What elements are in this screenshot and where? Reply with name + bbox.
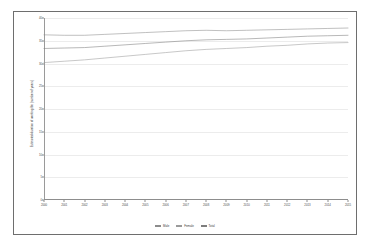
chart-legend: MaleFemaleTotal xyxy=(14,224,356,228)
x-tick-label: 2004 xyxy=(122,203,128,207)
x-tick-label: 2010 xyxy=(244,203,250,207)
x-tick-mark xyxy=(348,200,349,202)
x-tick-mark xyxy=(307,200,308,202)
x-tick-mark xyxy=(266,200,267,202)
x-tick-mark xyxy=(165,200,166,202)
plot-area: 0510152025303540 20002001200220032004200… xyxy=(44,18,348,200)
series-line-female xyxy=(44,43,348,63)
x-tick-mark xyxy=(145,200,146,202)
chart-canvas: Estimated duration of working life (numb… xyxy=(14,12,356,234)
y-tick-label: 0 xyxy=(40,198,42,202)
y-tick-label: 10 xyxy=(39,153,42,157)
x-tick-mark xyxy=(44,200,45,202)
legend-label: Total xyxy=(209,224,215,228)
y-tick-label: 40 xyxy=(39,16,42,20)
x-tick-label: 2000 xyxy=(41,203,47,207)
x-tick-label: 2013 xyxy=(304,203,310,207)
x-tick-label: 2003 xyxy=(102,203,108,207)
x-tick-mark xyxy=(206,200,207,202)
legend-swatch-icon xyxy=(176,225,182,226)
x-tick-mark xyxy=(327,200,328,202)
x-tick-mark xyxy=(246,200,247,202)
y-tick-label: 20 xyxy=(39,107,42,111)
y-tick-label: 30 xyxy=(39,62,42,66)
y-tick-label: 5 xyxy=(40,175,42,179)
x-tick-label: 2002 xyxy=(81,203,87,207)
x-tick-mark xyxy=(226,200,227,202)
x-tick-label: 2011 xyxy=(264,203,270,207)
chart-figure: Estimated duration of working life (numb… xyxy=(13,11,357,235)
series-line-male xyxy=(44,28,348,35)
series-lines xyxy=(44,18,348,200)
legend-label: Female xyxy=(184,224,194,228)
x-tick-label: 2012 xyxy=(284,203,290,207)
x-tick-label: 2014 xyxy=(325,203,331,207)
x-tick-label: 2015 xyxy=(345,203,351,207)
x-tick-label: 2007 xyxy=(183,203,189,207)
x-tick-mark xyxy=(64,200,65,202)
x-tick-mark xyxy=(287,200,288,202)
series-line-total xyxy=(44,35,348,48)
y-tick-label: 25 xyxy=(39,84,42,88)
legend-swatch-icon xyxy=(155,225,161,226)
x-tick-mark xyxy=(185,200,186,202)
x-tick-mark xyxy=(84,200,85,202)
y-axis-title: Estimated duration of working life (numb… xyxy=(31,54,34,174)
x-tick-label: 2008 xyxy=(203,203,209,207)
legend-label: Male xyxy=(163,224,169,228)
x-tick-label: 2009 xyxy=(223,203,229,207)
legend-swatch-icon xyxy=(201,225,207,226)
y-tick-label: 15 xyxy=(39,130,42,134)
legend-item-male[interactable]: Male xyxy=(155,224,169,228)
x-tick-mark xyxy=(104,200,105,202)
y-tick-label: 35 xyxy=(39,39,42,43)
legend-item-female[interactable]: Female xyxy=(176,224,193,228)
x-tick-label: 2001 xyxy=(61,203,67,207)
x-tick-mark xyxy=(125,200,126,202)
legend-item-total[interactable]: Total xyxy=(201,224,215,228)
x-tick-label: 2005 xyxy=(142,203,148,207)
x-tick-label: 2006 xyxy=(162,203,168,207)
